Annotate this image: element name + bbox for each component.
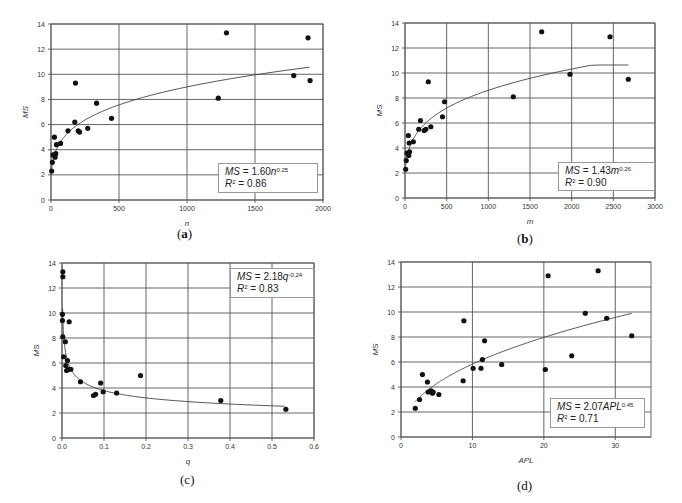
data-point	[431, 389, 436, 394]
data-point	[417, 397, 422, 402]
data-point	[596, 268, 601, 273]
data-point	[543, 367, 548, 372]
data-point	[480, 357, 485, 362]
x-tick-label: 10	[469, 442, 477, 449]
x-tick-label: 30	[611, 442, 619, 449]
x-axis-label: APL	[517, 456, 533, 465]
x-tick-label: 0	[399, 442, 403, 449]
y-tick-label: 10	[387, 309, 395, 316]
y-tick-label: 0	[391, 434, 395, 441]
trendline	[415, 313, 631, 401]
data-point	[420, 372, 425, 377]
data-point	[482, 338, 487, 343]
data-point	[471, 366, 476, 371]
y-tick-label: 6	[391, 359, 395, 366]
legend-box-d: MS = 2.07APL0.45 R2 = 0.71	[550, 398, 645, 428]
data-point	[629, 333, 634, 338]
data-point	[436, 392, 441, 397]
data-point	[604, 316, 609, 321]
caption-d: (d)	[517, 478, 532, 494]
data-point	[461, 318, 466, 323]
y-tick-label: 2	[391, 409, 395, 416]
y-tick-label: 4	[391, 384, 395, 391]
equation-text: MS = 2.07APL0.45	[557, 401, 638, 413]
y-tick-label: 12	[387, 284, 395, 291]
data-point	[425, 379, 430, 384]
data-point	[413, 406, 418, 411]
data-point	[499, 362, 504, 367]
r-squared-text: R2 = 0.71	[557, 413, 638, 425]
data-point	[461, 378, 466, 383]
y-tick-label: 14	[387, 259, 395, 266]
y-axis-label: MS	[371, 343, 380, 356]
data-point	[546, 273, 551, 278]
x-tick-label: 20	[540, 442, 548, 449]
data-point	[478, 366, 483, 371]
chart-panel-d: 024681012140102030APLMS MS = 2.07APL0.45…	[0, 0, 682, 503]
y-tick-label: 8	[391, 334, 395, 341]
data-point	[569, 353, 574, 358]
data-point	[583, 311, 588, 316]
